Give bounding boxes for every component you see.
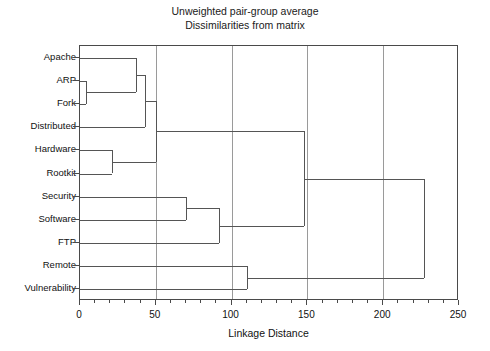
link-m3 [80,58,136,59]
x-axis-label-100: 100 [222,309,239,320]
link-m3 [86,92,136,93]
link-m5 [145,101,156,102]
link-m10 [247,278,424,279]
x-axis-label-250: 250 [450,309,467,320]
chart-title-block: Unweighted pair-group average Dissimilar… [0,4,490,32]
plot-area [79,45,458,300]
x-axis-label-200: 200 [374,309,391,320]
link-m6 [80,220,186,221]
link-m9 [219,226,304,227]
link-m1 [80,104,86,105]
x-axis-label-150: 150 [298,309,315,320]
gridline-50 [156,46,157,299]
gridline-200 [383,46,384,299]
link-m7 [80,243,219,244]
link-m8 [80,289,247,290]
link-m2 [80,150,112,151]
link-m5 [112,162,156,163]
x-axis-label-50: 50 [149,309,160,320]
link-m4 [136,75,145,76]
dendrogram-figure: Unweighted pair-group average Dissimilar… [0,0,490,351]
x-axis-labels: 050100150200250 [79,303,459,319]
link-m10 [304,179,424,180]
x-axis-title: Linkage Distance [79,327,458,339]
link-m2 [80,174,112,175]
link-m9 [156,131,305,132]
link-m10-v [424,179,425,278]
gridline-100 [232,46,233,299]
gridline-150 [307,46,308,299]
chart-subtitle: Dissimilarities from matrix [0,18,490,32]
x-axis-label-0: 0 [76,309,82,320]
link-m6 [80,197,186,198]
chart-title: Unweighted pair-group average [0,4,490,18]
link-m4 [80,127,145,128]
y-axis-ticks [0,45,79,300]
link-m7 [186,208,219,209]
link-m8 [80,266,247,267]
